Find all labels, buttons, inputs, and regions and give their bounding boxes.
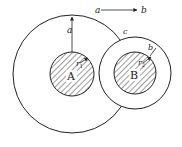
sphere-a: A r1 — [50, 52, 94, 96]
label-c: c — [123, 27, 128, 36]
label-a-top: a — [95, 5, 100, 15]
label-b-top: b — [141, 5, 147, 15]
diagram-canvas: A r1 B r2 b a a b c — [0, 0, 182, 147]
distance-a-vertical-label: a — [67, 25, 72, 35]
sphere-a-label: A — [66, 70, 76, 83]
thickness-b-label: b — [148, 43, 153, 52]
sphere-b-label: B — [130, 69, 138, 82]
